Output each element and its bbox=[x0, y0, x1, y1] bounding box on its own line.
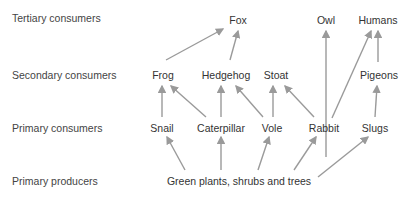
node-vole: Vole bbox=[262, 122, 282, 134]
arrow-frog-fox bbox=[166, 29, 223, 60]
arrow-plants-snail bbox=[167, 137, 185, 170]
node-caterpillar: Caterpillar bbox=[197, 122, 245, 134]
node-owl: Owl bbox=[317, 14, 335, 26]
node-stoat: Stoat bbox=[264, 69, 289, 81]
arrow-vole-hedgehog bbox=[236, 86, 263, 117]
node-plants: Green plants, shrubs and trees bbox=[167, 175, 311, 187]
food-web-arrows bbox=[0, 0, 412, 200]
arrow-rabbit-stoat bbox=[285, 86, 314, 117]
node-fox: Fox bbox=[229, 14, 247, 26]
arrow-plants-vole bbox=[258, 137, 269, 170]
node-snail: Snail bbox=[150, 122, 173, 134]
arrow-plants-rabbit bbox=[294, 137, 316, 170]
node-humans: Humans bbox=[358, 14, 397, 26]
node-slugs: Slugs bbox=[362, 122, 388, 134]
node-hedgehog: Hedgehog bbox=[202, 69, 250, 81]
arrow-hedgehog-fox bbox=[230, 31, 238, 60]
node-frog: Frog bbox=[152, 69, 174, 81]
arrow-slugs-pigeons bbox=[375, 86, 377, 117]
node-pigeons: Pigeons bbox=[360, 69, 398, 81]
node-rabbit: Rabbit bbox=[309, 122, 339, 134]
arrow-caterpillar-frog bbox=[171, 86, 206, 117]
